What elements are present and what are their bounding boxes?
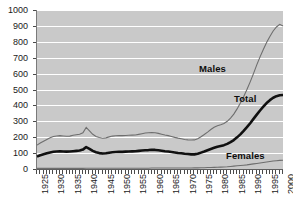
x-axis: 1925193019351940194519501955196019651970… [0,174,293,197]
y-axis: 01002003004005006007008009001000 [0,0,33,197]
x-tick-label: 1970 [188,174,198,194]
x-tick-label: 1995 [270,174,280,194]
y-tick-label: 900 [13,21,28,31]
series-label-males: Males [199,63,226,74]
series-line-total [37,95,283,157]
x-tick-label: 1975 [204,174,214,194]
line-chart: 01002003004005006007008009001000 Males T… [0,0,293,197]
x-tick-label: 1980 [220,174,230,194]
y-tick-label: 300 [13,116,28,126]
chart-title [36,0,256,2]
y-tick-label: 700 [13,53,28,63]
series-label-total: Total [234,93,257,104]
series-label-females: Females [226,150,265,161]
y-tick-label: 800 [13,37,28,47]
x-tick-label: 1950 [122,174,132,194]
x-tick-label: 1990 [253,174,263,194]
x-tick-label: 2000 [286,174,293,194]
x-tick-label: 1965 [171,174,181,194]
x-tick-label: 1960 [155,174,165,194]
x-tick-label: 1985 [237,174,247,194]
y-tick-label: 500 [13,85,28,95]
plot-area: Males Total Females [36,10,283,170]
y-tick-label: 0 [23,164,28,174]
x-tick-label: 1940 [89,174,99,194]
x-tick-label: 1930 [56,174,66,194]
y-tick-label: 100 [13,148,28,158]
y-tick-label: 400 [13,100,28,110]
y-tick-label: 600 [13,69,28,79]
x-tick-label: 1945 [106,174,116,194]
x-tick-label: 1955 [138,174,148,194]
x-tick-label: 1935 [73,174,83,194]
y-tick-label: 1000 [8,5,28,15]
series-layer [37,10,283,169]
x-tick-label: 1925 [40,174,50,194]
series-line-females [37,160,283,168]
y-tick-label: 200 [13,132,28,142]
